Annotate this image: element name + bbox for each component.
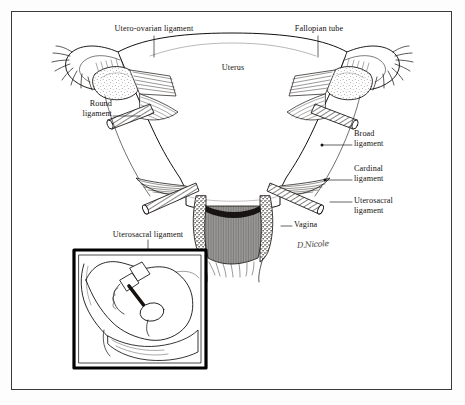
label-cardinal-ligament: Cardinal ligament <box>354 164 420 184</box>
label-utero-ovarian-ligament: Utero-ovarian ligament <box>88 24 220 34</box>
label-fallopian-tube: Fallopian tube <box>276 24 362 34</box>
label-inset-uterosacral-ligament: Uterosacral ligament <box>91 230 205 240</box>
label-vagina: Vagina <box>294 220 344 230</box>
label-uterus: Uterus <box>205 63 261 73</box>
label-uterosacral-ligament: Uterosacral ligament <box>354 196 426 216</box>
label-broad-ligament: Broad ligament <box>354 129 420 149</box>
label-round-ligament: Round ligament <box>58 99 112 119</box>
figure-root: Utero-ovarian ligament Fallopian tube Ut… <box>0 0 465 405</box>
inset-panel <box>74 250 206 368</box>
